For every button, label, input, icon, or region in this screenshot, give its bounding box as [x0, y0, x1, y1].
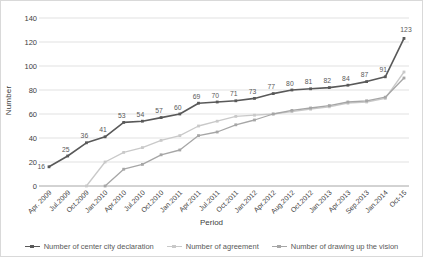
point-marker-icon — [104, 161, 107, 164]
point-label: 82 — [324, 77, 332, 84]
y-tick-label: 20 — [29, 158, 37, 167]
point-marker-icon — [66, 155, 69, 158]
declaration-line-swatch — [25, 246, 40, 247]
point-marker-icon — [48, 165, 51, 168]
y-tick-label: 0 — [33, 182, 37, 191]
x-tick-label: Oct-15 — [388, 189, 408, 209]
point-marker-icon — [160, 153, 163, 156]
chart-legend: Number of center city declaration Number… — [1, 242, 422, 251]
vision-marker-icon — [277, 245, 281, 248]
point-marker-icon — [216, 101, 219, 104]
point-marker-icon — [328, 104, 331, 107]
point-marker-icon — [178, 134, 181, 137]
point-marker-icon — [253, 114, 256, 117]
point-marker-icon — [160, 139, 163, 142]
point-marker-icon — [141, 163, 144, 166]
point-label: 73 — [249, 88, 257, 95]
point-marker-icon — [141, 120, 144, 123]
point-label: 87 — [361, 71, 369, 78]
point-label: 53 — [118, 112, 126, 119]
point-marker-icon — [104, 135, 107, 138]
point-marker-icon — [234, 115, 237, 118]
point-marker-icon — [85, 141, 88, 144]
legend-item-vision: Number of drawing up the vision — [272, 242, 399, 251]
point-marker-icon — [403, 37, 406, 40]
legend-label-vision: Number of drawing up the vision — [291, 242, 399, 251]
legend-label-declaration: Number of center city declaration — [44, 242, 154, 251]
point-marker-icon — [365, 80, 368, 83]
point-marker-icon — [104, 185, 107, 188]
legend-label-agreement: Number of agreement — [186, 242, 259, 251]
point-marker-icon — [291, 89, 294, 92]
point-marker-icon — [384, 96, 387, 99]
point-label: 60 — [174, 104, 182, 111]
point-marker-icon — [197, 134, 200, 137]
point-marker-icon — [85, 185, 88, 188]
point-label: 81 — [305, 78, 313, 85]
y-axis-title: Number — [4, 76, 13, 126]
agreement-line-swatch — [167, 246, 182, 247]
x-tick-label: Apr. 2009 — [27, 189, 54, 216]
point-label: 80 — [286, 80, 294, 87]
point-marker-icon — [197, 102, 200, 105]
agreement-marker-icon — [172, 245, 176, 248]
y-tick-label: 60 — [29, 110, 37, 119]
point-label: 57 — [155, 107, 163, 114]
point-marker-icon — [347, 101, 350, 104]
point-marker-icon — [178, 113, 181, 116]
series-line-1 — [86, 72, 404, 186]
point-marker-icon — [309, 107, 312, 110]
point-label: 16 — [37, 163, 45, 170]
point-label: 69 — [193, 93, 201, 100]
point-label: 91 — [380, 66, 388, 73]
point-marker-icon — [160, 116, 163, 119]
point-marker-icon — [291, 109, 294, 112]
point-label: 77 — [267, 83, 275, 90]
y-tick-label: 120 — [24, 38, 37, 47]
legend-item-declaration: Number of center city declaration — [25, 242, 154, 251]
point-marker-icon — [309, 87, 312, 90]
y-tick-label: 140 — [24, 14, 37, 23]
point-label: 36 — [81, 132, 89, 139]
y-tick-label: 80 — [29, 86, 37, 95]
point-label: 84 — [342, 75, 350, 82]
point-marker-icon — [234, 99, 237, 102]
point-marker-icon — [253, 97, 256, 100]
point-marker-icon — [178, 149, 181, 152]
point-marker-icon — [272, 92, 275, 95]
point-marker-icon — [272, 113, 275, 116]
point-label: 25 — [62, 146, 70, 153]
point-marker-icon — [122, 121, 125, 124]
declaration-marker-icon — [30, 245, 34, 248]
point-marker-icon — [403, 71, 406, 74]
chart-figure: 020406080100120140Apr. 2009Jul.2009Oct.2… — [0, 0, 423, 257]
y-tick-label: 100 — [24, 62, 37, 71]
point-label: 71 — [230, 90, 238, 97]
x-axis-title: Period — [1, 218, 422, 227]
legend-item-agreement: Number of agreement — [167, 242, 259, 251]
vision-line-swatch — [272, 246, 287, 247]
point-marker-icon — [253, 119, 256, 122]
point-label: 70 — [211, 92, 219, 99]
point-marker-icon — [216, 131, 219, 134]
point-marker-icon — [122, 168, 125, 171]
point-label: 41 — [99, 126, 107, 133]
point-marker-icon — [122, 151, 125, 154]
point-marker-icon — [384, 75, 387, 78]
point-marker-icon — [234, 123, 237, 126]
point-label: 123 — [400, 26, 412, 33]
point-marker-icon — [141, 146, 144, 149]
y-tick-label: 40 — [29, 134, 37, 143]
point-marker-icon — [216, 120, 219, 123]
point-marker-icon — [347, 84, 350, 87]
point-marker-icon — [328, 86, 331, 89]
point-marker-icon — [365, 99, 368, 102]
point-marker-icon — [403, 77, 406, 80]
point-marker-icon — [197, 125, 200, 128]
point-label: 54 — [137, 111, 145, 118]
